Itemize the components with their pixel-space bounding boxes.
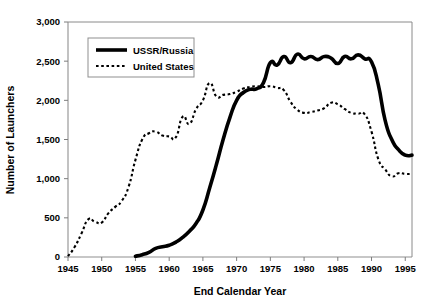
y-axis-ticks: 05001,0001,5002,0002,5003,000: [36, 16, 68, 262]
y-tick-label: 3,000: [36, 16, 60, 27]
x-tick-label: 1985: [327, 263, 349, 274]
y-tick-label: 2,500: [36, 56, 60, 67]
x-axis-ticks: 1945195019551960196519701975198019851990…: [57, 257, 416, 274]
x-axis-title: End Calendar Year: [194, 285, 287, 297]
legend-label-ussr-russia: USSR/Russia: [133, 45, 194, 56]
x-tick-label: 1950: [91, 263, 112, 274]
y-axis-title: Number of Launchers: [4, 86, 16, 195]
x-tick-label: 1975: [260, 263, 282, 274]
x-tick-label: 1970: [226, 263, 247, 274]
legend-label-united-states: United States: [133, 61, 194, 72]
x-tick-label: 1990: [361, 263, 382, 274]
x-tick-label: 1965: [192, 263, 214, 274]
x-tick-label: 1945: [57, 263, 79, 274]
chart-container: 05001,0001,5002,0002,5003,000 1945195019…: [0, 0, 434, 307]
x-tick-label: 1995: [395, 263, 417, 274]
x-tick-label: 1980: [294, 263, 315, 274]
x-tick-label: 1955: [125, 263, 147, 274]
y-tick-label: 2,000: [36, 95, 60, 106]
y-tick-label: 1,500: [36, 134, 60, 145]
legend: USSR/Russia United States: [88, 38, 194, 77]
launchers-line-chart: 05001,0001,5002,0002,5003,000 1945195019…: [0, 0, 434, 307]
y-tick-label: 1,000: [36, 173, 60, 184]
x-tick-label: 1960: [159, 263, 180, 274]
y-tick-label: 0: [55, 251, 60, 262]
y-tick-label: 500: [44, 212, 60, 223]
